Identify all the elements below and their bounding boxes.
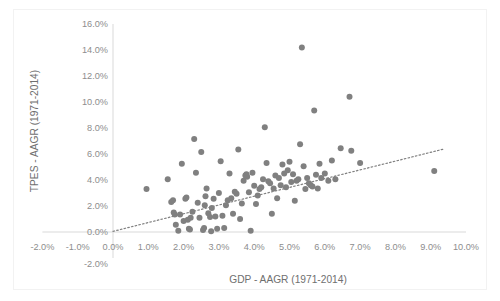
axis-lines xyxy=(42,24,466,258)
data-point xyxy=(175,228,181,234)
x-tick-label: 3.0% xyxy=(208,242,229,252)
data-points-layer xyxy=(144,44,438,234)
data-point xyxy=(235,146,241,152)
x-tick-label: -2.0% xyxy=(30,242,54,252)
data-point xyxy=(196,215,202,221)
x-tick-label: 2.0% xyxy=(173,242,194,252)
data-point xyxy=(260,176,266,182)
data-point xyxy=(248,228,254,234)
data-point xyxy=(347,94,353,100)
data-point xyxy=(183,195,189,201)
data-point xyxy=(267,180,273,186)
x-tick-label: 8.0% xyxy=(385,242,406,252)
scatter-chart: -2.0%0.0%2.0%4.0%6.0%8.0%10.0%12.0%14.0%… xyxy=(0,0,500,301)
data-point xyxy=(269,211,275,217)
data-point xyxy=(313,172,319,178)
y-tick-label: 6.0% xyxy=(87,149,108,159)
x-axis-title: GDP - AAGR (1971-2014) xyxy=(229,274,347,285)
x-tick-label: 10.0% xyxy=(453,242,479,252)
data-point xyxy=(332,176,338,182)
y-tick-label: 14.0% xyxy=(82,45,108,55)
y-tick-label: 0.0% xyxy=(87,227,108,237)
data-point xyxy=(187,226,193,232)
y-tick-label: 12.0% xyxy=(82,71,108,81)
data-point xyxy=(219,213,225,219)
x-tick-label: 7.0% xyxy=(350,242,371,252)
data-point xyxy=(202,193,208,199)
data-point xyxy=(204,185,210,191)
data-point xyxy=(170,197,176,203)
data-point xyxy=(188,215,194,221)
data-point xyxy=(228,195,234,201)
data-point xyxy=(214,226,220,232)
data-point xyxy=(329,158,335,164)
data-point xyxy=(249,170,255,176)
data-point xyxy=(237,216,243,222)
data-point xyxy=(338,145,344,151)
data-point xyxy=(211,196,217,202)
data-point xyxy=(309,184,315,190)
data-point xyxy=(302,186,308,192)
y-tick-label: 8.0% xyxy=(87,123,108,133)
data-point xyxy=(301,163,307,169)
data-point xyxy=(144,186,150,192)
data-point xyxy=(258,184,264,190)
data-point xyxy=(431,168,437,174)
data-point xyxy=(322,171,328,177)
data-point xyxy=(285,167,291,173)
data-point xyxy=(278,182,284,188)
data-point xyxy=(251,183,257,189)
y-tick-label: 2.0% xyxy=(87,201,108,211)
data-point xyxy=(239,200,245,206)
data-point xyxy=(207,214,213,220)
data-point xyxy=(208,228,214,234)
x-tick-label: 1.0% xyxy=(138,242,159,252)
data-point xyxy=(315,185,321,191)
data-point xyxy=(216,190,222,196)
y-tick-label: 16.0% xyxy=(82,19,108,29)
data-point xyxy=(244,174,250,180)
data-point xyxy=(357,160,363,166)
data-point xyxy=(191,136,197,142)
data-point xyxy=(234,191,240,197)
data-point xyxy=(212,213,218,219)
x-tick-label: -1.0% xyxy=(66,242,90,252)
data-point xyxy=(274,195,280,201)
trendline-segment xyxy=(113,149,445,232)
x-tick-label: 0.0% xyxy=(103,242,124,252)
data-point xyxy=(299,44,305,50)
data-point xyxy=(287,159,293,165)
y-tick-label: 10.0% xyxy=(82,97,108,107)
data-point xyxy=(195,200,201,206)
x-tick-label: 4.0% xyxy=(244,242,265,252)
y-tick-label: -2.0% xyxy=(84,259,108,269)
data-point xyxy=(279,161,285,167)
data-point xyxy=(198,149,204,155)
x-tick-label: 6.0% xyxy=(314,242,335,252)
data-point xyxy=(288,179,294,185)
data-point xyxy=(179,161,185,167)
data-point xyxy=(262,124,268,130)
data-point xyxy=(276,175,282,181)
data-point xyxy=(221,225,227,231)
y-tick-label: 4.0% xyxy=(87,175,108,185)
data-point xyxy=(264,160,270,166)
data-point xyxy=(193,170,199,176)
data-point xyxy=(218,158,224,164)
data-point xyxy=(304,175,310,181)
data-point xyxy=(317,161,323,167)
data-point xyxy=(292,198,298,204)
data-point xyxy=(165,176,171,182)
data-point xyxy=(295,176,301,182)
data-point xyxy=(311,107,317,113)
data-point xyxy=(230,211,236,217)
data-point xyxy=(201,225,207,231)
data-point xyxy=(348,148,354,154)
data-point xyxy=(297,141,303,147)
x-axis-tick-labels: -2.0%-1.0%0.0%1.0%2.0%3.0%4.0%5.0%6.0%7.… xyxy=(30,242,479,252)
trendline xyxy=(113,149,445,232)
data-point xyxy=(246,189,252,195)
data-point xyxy=(325,178,331,184)
x-tick-label: 9.0% xyxy=(420,242,441,252)
data-point xyxy=(253,201,259,207)
